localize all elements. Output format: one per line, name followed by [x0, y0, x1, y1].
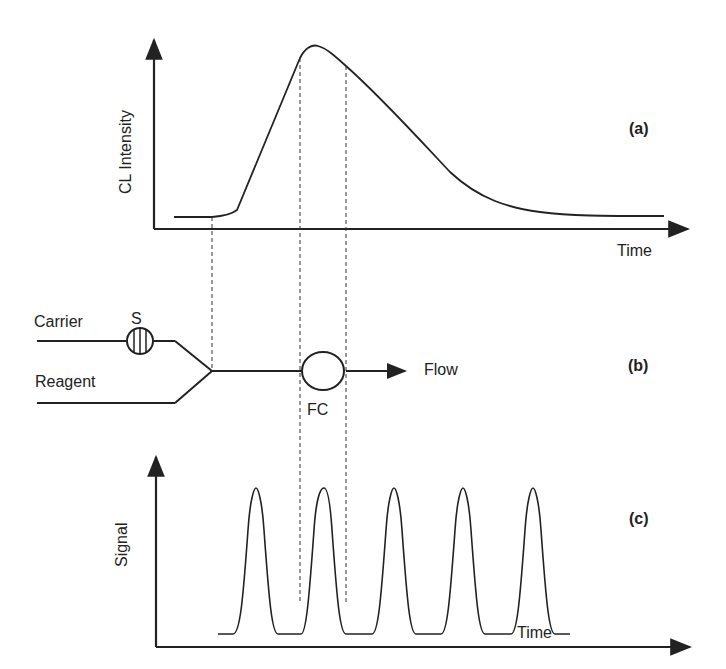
signal-peaks-curve — [218, 488, 570, 634]
panel-c-label: (c) — [629, 510, 649, 528]
cl-intensity-curve — [174, 46, 664, 218]
dashed-guides — [212, 58, 346, 603]
flow-manifold — [37, 341, 405, 403]
sample-label: S — [131, 310, 142, 328]
reagent-label: Reagent — [35, 373, 96, 391]
panel-c-xlabel: Time — [517, 624, 552, 642]
flow-cell-icon — [302, 352, 344, 390]
diagram-canvas — [0, 0, 726, 669]
panel-b-label: (b) — [628, 357, 648, 375]
sample-injector-icon — [127, 328, 153, 354]
flow-cell-label: FC — [307, 401, 328, 419]
flow-label: Flow — [424, 361, 458, 379]
panel-c-axes — [156, 457, 690, 647]
carrier-label: Carrier — [34, 313, 83, 331]
panel-a-label: (a) — [629, 120, 649, 138]
panel-a-axes — [154, 40, 688, 229]
panel-a-ylabel: CL Intensity — [117, 110, 135, 194]
panel-c-ylabel: Signal — [113, 523, 131, 567]
panel-a-xlabel: Time — [617, 242, 652, 260]
